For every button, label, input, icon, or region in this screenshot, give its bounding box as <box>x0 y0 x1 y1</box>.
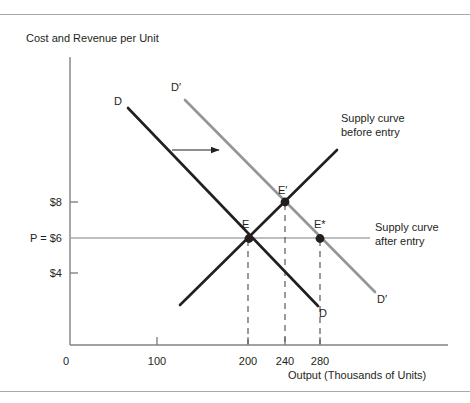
note-supply-before-entry-line1: Supply curve <box>341 112 405 124</box>
y-tick-label-p6: P = $6 <box>30 232 62 244</box>
x-tick-label-200: 200 <box>239 355 257 367</box>
x-tick-label-0: 0 <box>63 355 69 367</box>
curve-label-d-top: D <box>114 95 122 107</box>
x-axis-title: Output (Thousands of Units) <box>288 369 426 381</box>
curve-label-d-prime-top: D′ <box>171 81 181 93</box>
y-tick-label-8: $8 <box>50 196 62 208</box>
curve-label-d-prime-bottom: D′ <box>377 293 387 305</box>
note-supply-after-entry-line1: Supply curve <box>375 221 439 233</box>
x-tick-label-240: 240 <box>276 355 294 367</box>
point-label-e-prime: E′ <box>278 184 287 196</box>
curve-label-d-bottom: D <box>319 307 327 319</box>
point-e-prime-dot <box>281 198 290 207</box>
note-supply-after-entry-line2: after entry <box>375 235 425 247</box>
x-tick-label-100: 100 <box>148 355 166 367</box>
point-e-dot <box>245 234 254 243</box>
point-label-e-star: E* <box>314 218 326 230</box>
figure-canvas: Cost and Revenue per Unit Output (Thousa… <box>0 0 470 403</box>
supply-demand-chart: Cost and Revenue per Unit Output (Thousa… <box>0 0 470 403</box>
y-tick-label-4: $4 <box>50 267 62 279</box>
point-label-e: E <box>242 218 249 230</box>
y-axis-title: Cost and Revenue per Unit <box>26 32 159 44</box>
note-supply-before-entry-line2: before entry <box>341 126 400 138</box>
point-e-star-dot <box>316 234 325 243</box>
x-tick-label-280: 280 <box>311 355 329 367</box>
